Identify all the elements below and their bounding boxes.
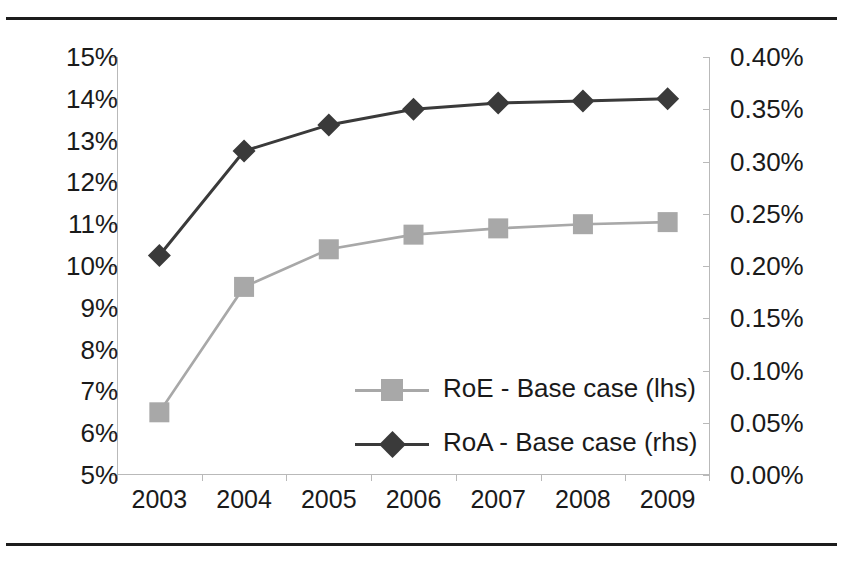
x-axis-tick-label: 2008 bbox=[555, 487, 611, 512]
right-axis-tick-label: 0.00% bbox=[730, 462, 804, 488]
bottom-rule bbox=[6, 543, 837, 546]
left-axis-tick-label: 13% bbox=[66, 128, 118, 154]
right-axis-tick-label: 0.40% bbox=[730, 44, 804, 70]
chart-figure: 15%14%13%12%11%10%9%8%7%6%5% 0.40%0.35%0… bbox=[0, 0, 843, 561]
diamond-data-marker bbox=[571, 89, 594, 112]
x-axis-tick-label: 2003 bbox=[132, 487, 188, 512]
square-data-marker bbox=[404, 225, 424, 245]
square-data-marker bbox=[149, 402, 169, 422]
left-axis-tick-label: 5% bbox=[80, 462, 118, 488]
left-axis-tick-label: 10% bbox=[66, 253, 118, 279]
x-tick bbox=[709, 474, 710, 481]
top-rule bbox=[6, 17, 837, 20]
left-axis-tick-label: 15% bbox=[66, 44, 118, 70]
left-axis-tick-label: 9% bbox=[80, 295, 118, 321]
square-marker-icon bbox=[381, 379, 403, 401]
x-axis-tick-label: 2007 bbox=[470, 487, 526, 512]
x-tick bbox=[371, 474, 372, 481]
right-axis-tick-label: 0.05% bbox=[730, 410, 804, 436]
x-axis-tick-label: 2005 bbox=[301, 487, 357, 512]
square-data-marker bbox=[658, 212, 678, 232]
legend-entry-roa: RoA - Base case (rhs) bbox=[355, 417, 655, 471]
legend-label-roe: RoE - Base case (lhs) bbox=[443, 373, 696, 403]
x-tick bbox=[456, 474, 457, 481]
square-data-marker bbox=[319, 239, 339, 259]
left-axis-tick-label: 14% bbox=[66, 86, 118, 112]
legend-entry-roe: RoE - Base case (lhs) bbox=[355, 363, 655, 417]
left-axis-tick-label: 8% bbox=[80, 337, 118, 363]
right-axis-tick-label: 0.20% bbox=[730, 253, 804, 279]
x-axis-tick-label: 2009 bbox=[640, 487, 696, 512]
x-tick bbox=[286, 474, 287, 481]
x-axis-tick-label: 2004 bbox=[216, 487, 272, 512]
legend-swatch-roa bbox=[355, 433, 429, 455]
right-axis-tick-label: 0.35% bbox=[730, 96, 804, 122]
diamond-data-marker bbox=[487, 91, 510, 114]
diamond-marker-icon bbox=[379, 431, 406, 458]
right-axis-tick-label: 0.15% bbox=[730, 305, 804, 331]
legend-swatch-roe bbox=[355, 379, 429, 401]
left-axis-tick-label: 7% bbox=[80, 378, 118, 404]
chart-legend: RoE - Base case (lhs) RoA - Base case (r… bbox=[355, 363, 655, 471]
right-axis-tick-label: 0.30% bbox=[730, 149, 804, 175]
x-tick bbox=[625, 474, 626, 481]
right-axis-tick-label: 0.25% bbox=[730, 201, 804, 227]
legend-label-roa: RoA - Base case (rhs) bbox=[443, 427, 697, 457]
square-data-marker bbox=[573, 214, 593, 234]
diamond-data-marker bbox=[317, 113, 340, 136]
x-axis-tick-label: 2006 bbox=[386, 487, 442, 512]
left-axis-tick-label: 6% bbox=[80, 420, 118, 446]
x-tick bbox=[202, 474, 203, 481]
square-data-marker bbox=[234, 277, 254, 297]
diamond-data-marker bbox=[402, 98, 425, 121]
left-axis-tick-label: 12% bbox=[66, 169, 118, 195]
diamond-data-marker bbox=[656, 87, 679, 110]
square-data-marker bbox=[488, 218, 508, 238]
right-axis-tick-label: 0.10% bbox=[730, 358, 804, 384]
x-tick bbox=[541, 474, 542, 481]
left-axis-tick-label: 11% bbox=[68, 211, 118, 237]
